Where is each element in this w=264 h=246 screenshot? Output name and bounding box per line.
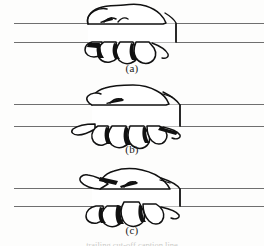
hand-back-shape xyxy=(100,169,170,189)
panel-a-label: (a) xyxy=(0,62,264,74)
panel-c-label: (c) xyxy=(0,224,264,236)
bar-face xyxy=(88,24,176,43)
panel-b: (b) xyxy=(0,80,264,160)
bar-face xyxy=(92,105,180,127)
hand-back-shape xyxy=(91,85,169,105)
figure-container: (a) xyxy=(0,0,264,246)
panel-a-illustration xyxy=(0,0,264,70)
panel-b-label: (b) xyxy=(0,143,264,155)
bottom-caption-cutoff: trailing cut-off caption line xyxy=(0,240,264,246)
finger-4 xyxy=(134,42,156,63)
hand-back-shape xyxy=(87,4,166,24)
panel-a: (a) xyxy=(0,0,264,80)
panel-c: (c) xyxy=(0,162,264,246)
